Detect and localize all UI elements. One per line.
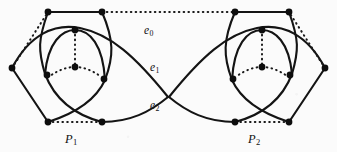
vertex-right-inner-mid (259, 64, 266, 71)
label-p1: P1 (65, 133, 77, 146)
edge-right-cross-b (232, 80, 289, 122)
edge-left-diagonal-dotted (12, 12, 48, 68)
label-e0: e0 (144, 25, 153, 38)
label-p2-base: P (248, 132, 256, 146)
edge-right-diagonal-dotted (289, 12, 325, 68)
vertex-right-inner-top (259, 27, 266, 34)
edge-left-horizontal-dotted-a (50, 67, 75, 76)
vertex-right-bot-right (286, 119, 293, 126)
vertex-left-bot-left (45, 119, 52, 126)
label-p1-sub: 1 (73, 137, 78, 147)
vertex-left-top-left (45, 9, 52, 16)
vertex-left-inner-mid (72, 64, 79, 71)
edge-right-horizontal-dotted-b (262, 67, 287, 76)
edge-left-lower-segment (12, 68, 48, 122)
vertex-left-top-right (99, 9, 106, 16)
label-p2-sub: 2 (256, 137, 261, 147)
vertex-left-outer (9, 65, 16, 72)
vertex-left-inner-top (72, 27, 79, 34)
edge-right-lower-segment (289, 68, 325, 122)
vertex-right-top-left (232, 9, 239, 16)
edge-e2-right-branch (169, 97, 235, 122)
vertex-right-bot-left (232, 119, 239, 126)
vertex-left-inner-left (44, 72, 51, 79)
edge-right-horizontal-dotted-a (237, 67, 262, 76)
graph-figure: e0 e1 e2 P1 P2 (0, 0, 337, 152)
edge-left-cross-b (48, 80, 105, 122)
vertex-right-top-right (286, 9, 293, 16)
vertex-right-inner-left (230, 76, 237, 83)
vertex-right-outer (322, 65, 329, 72)
label-e2-sub: 2 (155, 104, 159, 113)
graph-canvas (0, 0, 337, 152)
label-e0-sub: 0 (149, 29, 153, 38)
vertex-left-inner-right (101, 76, 108, 83)
label-p2: P2 (248, 133, 260, 146)
edge-left-horizontal-dotted-b (75, 67, 100, 76)
label-e1-sub: 1 (155, 66, 159, 75)
label-e2: e2 (150, 100, 159, 113)
vertex-right-inner-right (287, 72, 294, 79)
vertex-left-bot-right (99, 119, 106, 126)
label-p1-base: P (65, 132, 73, 146)
label-e1: e1 (150, 62, 159, 75)
